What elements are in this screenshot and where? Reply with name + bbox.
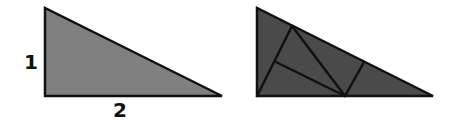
base-label: 2 <box>113 98 127 122</box>
right-triangle-shape <box>257 8 433 96</box>
right-triangle <box>257 8 433 96</box>
left-triangle-shape <box>45 8 222 96</box>
triangle-dissection-diagram: 1 2 <box>0 0 455 123</box>
left-triangle: 1 2 <box>24 8 222 122</box>
height-label: 1 <box>24 50 38 74</box>
